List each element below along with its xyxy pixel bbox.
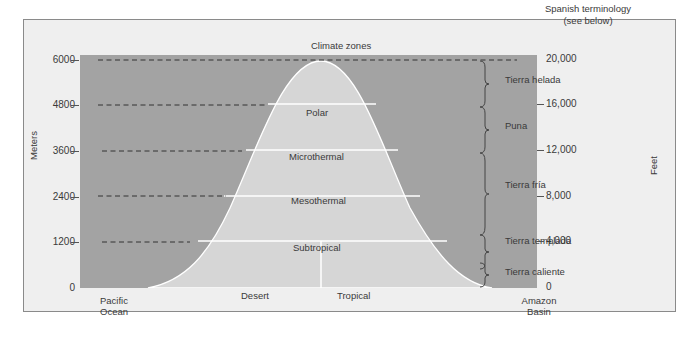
zone-label-tropical: Tropical bbox=[337, 291, 370, 301]
plot-area: Polar Microthermal Mesothermal Subtropic… bbox=[80, 55, 537, 288]
brace-tierra-fria bbox=[480, 153, 489, 235]
left-tick-0: 0 bbox=[69, 283, 75, 293]
zone-label-polar: Polar bbox=[306, 108, 328, 118]
pacific-ocean-label: Pacific Ocean bbox=[94, 296, 134, 316]
right-tick-mark bbox=[537, 104, 544, 105]
spanish-label-tierra-helada: Tierra helada bbox=[505, 75, 561, 85]
zone-label-desert: Desert bbox=[241, 291, 269, 301]
mountain-diagram bbox=[80, 55, 537, 288]
right-tick-0: 0 bbox=[546, 282, 552, 292]
left-tick-mark bbox=[71, 151, 79, 152]
spanish-title-line1: Spanish terminology bbox=[543, 4, 633, 14]
right-tick-20000: 20,000 bbox=[546, 54, 577, 64]
pacific-line1: Pacific bbox=[94, 296, 134, 306]
brace-tierra-templada bbox=[480, 235, 489, 269]
right-tick-mark bbox=[537, 241, 544, 242]
right-tick-16000: 16,000 bbox=[546, 99, 577, 109]
zone-label-microthermal: Microthermal bbox=[289, 152, 344, 162]
spanish-title-line2: (see below) bbox=[543, 16, 633, 26]
left-tick-mark bbox=[71, 197, 79, 198]
zone-label-mesothermal: Mesothermal bbox=[291, 196, 346, 206]
left-axis-title: Meters bbox=[28, 131, 39, 160]
right-tick-12000: 12,000 bbox=[546, 145, 577, 155]
left-tick-mark bbox=[71, 105, 79, 106]
amazon-line2: Basin bbox=[519, 307, 559, 317]
brace-puna bbox=[480, 107, 489, 153]
pacific-line2: Ocean bbox=[94, 307, 134, 317]
spanish-label-puna: Puna bbox=[505, 121, 527, 131]
mountain-shape bbox=[148, 61, 492, 288]
right-axis-title: Feet bbox=[648, 156, 659, 175]
amazon-line1: Amazon bbox=[519, 296, 559, 306]
spanish-label-tierra-caliente: Tierra caliente bbox=[505, 267, 565, 277]
zone-label-subtropical: Subtropical bbox=[293, 243, 341, 253]
left-tick-mark bbox=[71, 242, 79, 243]
right-tick-4000: 4,000 bbox=[546, 236, 571, 246]
right-tick-mark bbox=[537, 196, 544, 197]
climate-zones-title: Climate zones bbox=[311, 41, 371, 51]
spanish-terminology-title: Spanish terminology (see below) bbox=[543, 4, 633, 25]
right-tick-mark bbox=[537, 150, 544, 151]
amazon-basin-label: Amazon Basin bbox=[519, 296, 559, 316]
brace-group bbox=[480, 61, 489, 287]
spanish-label-tierra-fria: Tierra fría bbox=[505, 180, 546, 190]
right-tick-8000: 8,000 bbox=[546, 191, 571, 201]
left-tick-mark bbox=[71, 60, 79, 61]
brace-tierra-helada bbox=[480, 61, 489, 107]
brace-tierra-caliente bbox=[480, 263, 489, 287]
